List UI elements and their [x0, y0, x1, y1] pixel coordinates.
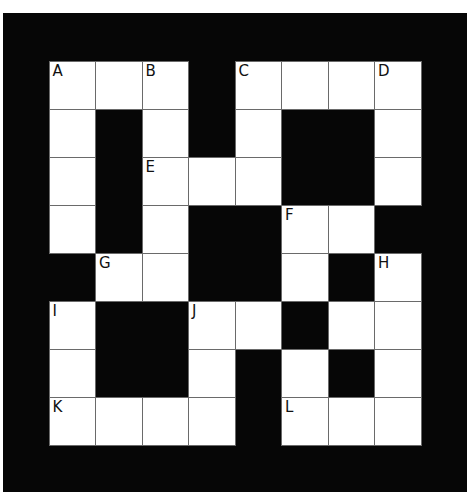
black-square: [96, 301, 143, 349]
crossword-cell[interactable]: [142, 109, 190, 158]
crossword-cell[interactable]: [188, 157, 236, 206]
crossword-cell[interactable]: G: [95, 253, 143, 302]
crossword-cell[interactable]: [374, 157, 422, 206]
black-square: [96, 349, 143, 397]
crossword-cell[interactable]: [142, 397, 190, 446]
black-square: [189, 109, 236, 157]
crossword-cell[interactable]: [281, 349, 329, 398]
crossword-cell[interactable]: I: [49, 301, 97, 350]
crossword-cell[interactable]: [374, 301, 422, 350]
black-square: [328, 349, 375, 397]
black-square: [235, 397, 282, 445]
crossword-cell[interactable]: C: [235, 61, 283, 110]
black-square: [375, 205, 422, 253]
crossword-cell[interactable]: [49, 349, 97, 398]
clue-label: C: [239, 64, 249, 79]
crossword-cell[interactable]: [374, 349, 422, 398]
crossword-cell[interactable]: [235, 157, 283, 206]
crossword-cell[interactable]: [142, 205, 190, 254]
crossword-grid: ABCDEFGHIJKL: [49, 61, 421, 445]
crossword-cell[interactable]: A: [49, 61, 97, 110]
black-square: [328, 109, 375, 157]
black-square: [189, 253, 236, 301]
black-square: [96, 109, 143, 157]
black-square: [142, 349, 189, 397]
crossword-cell[interactable]: [328, 397, 376, 446]
black-square: [235, 205, 282, 253]
crossword-cell[interactable]: [95, 397, 143, 446]
black-square: [282, 157, 329, 205]
crossword-cell[interactable]: H: [374, 253, 422, 302]
crossword-cell[interactable]: [328, 61, 376, 110]
crossword-cell[interactable]: [188, 397, 236, 446]
black-square: [96, 157, 143, 205]
black-square: [235, 253, 282, 301]
crossword-board: ABCDEFGHIJKL: [3, 13, 467, 492]
clue-label: G: [99, 256, 111, 271]
crossword-cell[interactable]: [142, 253, 190, 302]
clue-label: J: [192, 304, 196, 319]
crossword-cell[interactable]: [374, 109, 422, 158]
crossword-cell[interactable]: [49, 109, 97, 158]
crossword-cell[interactable]: [235, 301, 283, 350]
black-square: [235, 349, 282, 397]
crossword-cell[interactable]: [281, 61, 329, 110]
crossword-cell[interactable]: [328, 301, 376, 350]
crossword-cell[interactable]: [49, 205, 97, 254]
clue-label: K: [53, 400, 63, 415]
clue-label: L: [285, 400, 293, 415]
black-square: [282, 301, 329, 349]
crossword-cell[interactable]: [95, 61, 143, 110]
crossword-cell[interactable]: L: [281, 397, 329, 446]
black-square: [142, 301, 189, 349]
black-square: [282, 109, 329, 157]
crossword-cell[interactable]: B: [142, 61, 190, 110]
crossword-cell[interactable]: J: [188, 301, 236, 350]
crossword-cell[interactable]: K: [49, 397, 97, 446]
black-square: [49, 253, 96, 301]
clue-label: F: [285, 208, 294, 223]
black-square: [189, 61, 236, 109]
clue-label: A: [53, 64, 63, 79]
black-square: [328, 157, 375, 205]
crossword-cell[interactable]: [49, 157, 97, 206]
crossword-cell[interactable]: [188, 349, 236, 398]
black-square: [189, 205, 236, 253]
clue-label: E: [146, 160, 155, 175]
black-square: [328, 253, 375, 301]
clue-label: I: [53, 304, 57, 319]
black-square: [96, 205, 143, 253]
clue-label: B: [146, 64, 156, 79]
crossword-cell[interactable]: [374, 397, 422, 446]
crossword-cell[interactable]: E: [142, 157, 190, 206]
crossword-cell[interactable]: D: [374, 61, 422, 110]
crossword-cell[interactable]: [328, 205, 376, 254]
clue-label: D: [378, 64, 390, 79]
clue-label: H: [378, 256, 389, 271]
crossword-cell[interactable]: [281, 253, 329, 302]
crossword-cell[interactable]: F: [281, 205, 329, 254]
crossword-cell[interactable]: [235, 109, 283, 158]
